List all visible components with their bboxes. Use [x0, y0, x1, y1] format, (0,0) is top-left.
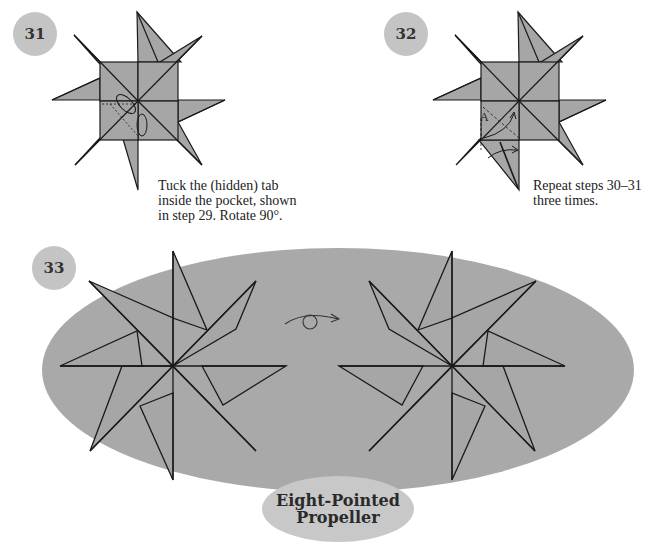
step-32-caption: Repeat steps 30–31 three times. — [533, 178, 642, 208]
caption-line: inside the pocket, shown — [158, 193, 296, 208]
step-31-badge: 31 — [13, 12, 57, 56]
caption-line: Repeat steps 30–31 — [533, 178, 642, 193]
step-31-model — [52, 12, 225, 190]
model-title-line-1: Eight-Pointed — [276, 492, 400, 509]
step-31-caption: Tuck the (hidden) tab inside the pocket,… — [158, 178, 296, 223]
step-32-badge: 32 — [384, 12, 428, 56]
step-32-model — [433, 12, 606, 190]
model-title-badge: Eight-Pointed Propeller — [262, 476, 414, 542]
fold-label-a: A — [480, 110, 489, 125]
model-title-line-2: Propeller — [296, 509, 379, 526]
caption-line: Tuck the (hidden) tab — [158, 178, 296, 193]
diagram-canvas — [0, 0, 649, 558]
caption-line: in step 29. Rotate 90°. — [158, 208, 296, 223]
caption-line: three times. — [533, 193, 642, 208]
step-33-badge: 33 — [32, 246, 76, 290]
